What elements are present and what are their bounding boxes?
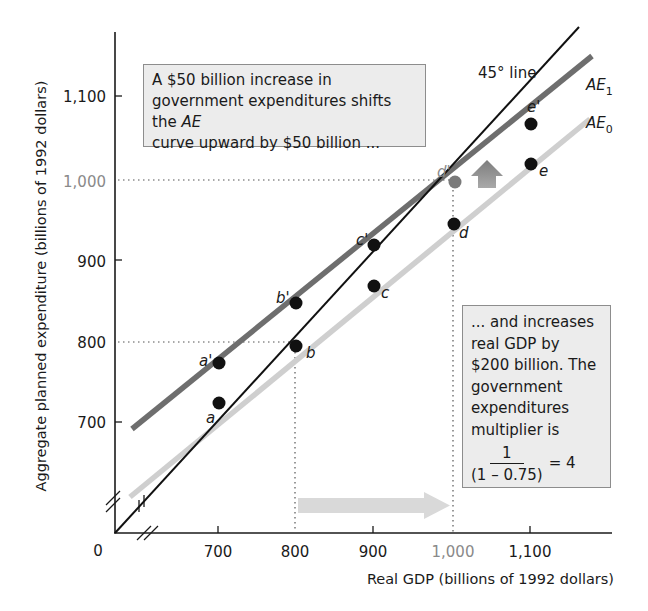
label-b-prime: b' (276, 289, 290, 307)
y-tick-800: 800 (77, 334, 106, 352)
annotation-multiplier-line1: ... and increases (471, 312, 602, 334)
annotation-multiplier-line2: real GDP by (471, 334, 602, 356)
x-axis-title: Real GDP (billions of 1992 dollars) (367, 571, 614, 587)
annotation-multiplier: ... and increases real GDP by $200 billi… (462, 305, 611, 488)
annotation-multiplier-line3: $200 billion. The (471, 355, 602, 377)
upward-shift-arrow-icon (471, 160, 503, 188)
point-c (368, 280, 381, 293)
y-tick-1000: 1,000 (63, 173, 106, 191)
reference-lines (118, 180, 453, 532)
fraction-numerator: 1 (490, 443, 524, 464)
forty-five-label: 45° line (478, 64, 536, 82)
y-tick-900: 900 (77, 253, 106, 271)
multiplier-fraction: 1 (1 – 0.75) (471, 443, 543, 486)
multiplier-formula: 1 (1 – 0.75) = 4 (471, 441, 602, 486)
annotation-multiplier-line4: government (471, 377, 602, 399)
annotation-multiplier-line5: expenditures (471, 398, 602, 420)
point-a-prime (213, 357, 226, 370)
label-d: d (459, 224, 469, 242)
annotation-shift: A $50 billion increase in government exp… (143, 64, 426, 147)
fraction-denominator: (1 – 0.75) (471, 464, 543, 486)
x-tick-800: 800 (281, 543, 310, 561)
label-d-prime: d' (437, 163, 451, 181)
annotation-shift-line3: curve upward by $50 billion ... (152, 133, 417, 154)
point-e (525, 158, 538, 171)
point-b (290, 340, 303, 353)
x-tick-1000: 1,000 (432, 543, 475, 561)
y-tick-700: 700 (77, 414, 106, 432)
y-axis-title: Aggregate planned expenditure (billions … (33, 81, 49, 492)
x-tick-1100: 1,100 (509, 543, 552, 561)
label-a-prime: a' (199, 352, 212, 370)
point-b-prime (290, 297, 303, 310)
multiplier-result: = 4 (549, 453, 576, 475)
label-b: b (306, 344, 316, 362)
gdp-increase-arrow-icon (298, 492, 450, 519)
label-c: c (381, 284, 390, 302)
label-c-prime: c' (356, 231, 368, 249)
label-e-prime: e' (527, 98, 540, 116)
point-a (213, 397, 226, 410)
ae0-label: AE0 (585, 114, 613, 136)
point-c-prime (368, 239, 381, 252)
annotation-shift-line2: government expenditures shifts the AE (152, 91, 417, 133)
origin-label: 0 (93, 542, 103, 560)
y-axis-break-icon (106, 491, 120, 512)
point-e-prime (525, 118, 538, 131)
ae1-label: AE1 (585, 76, 613, 98)
annotation-multiplier-line6: multiplier is (471, 420, 602, 442)
x-tick-900: 900 (359, 543, 388, 561)
label-a: a (206, 409, 215, 427)
y-tick-1100: 1,100 (63, 88, 106, 106)
annotation-shift-line1: A $50 billion increase in (152, 70, 417, 91)
x-tick-700: 700 (204, 543, 233, 561)
label-e: e (539, 162, 548, 180)
